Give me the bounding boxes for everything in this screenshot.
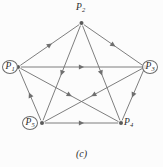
edge-layer — [19, 25, 143, 126]
arrowhead-p1-to-p2 — [46, 44, 52, 49]
vertex-label-letter: P1 — [5, 62, 14, 72]
arrowhead-p1-to-p3 — [79, 64, 84, 69]
node-p5[interactable] — [40, 121, 44, 125]
vertex-label-p2: P2 — [76, 3, 85, 13]
vertex-label-subscript: 5 — [32, 121, 35, 128]
node-p4[interactable] — [119, 121, 123, 125]
node-p2[interactable] — [80, 21, 84, 25]
vertex-label-p5: P5 — [22, 116, 38, 130]
vertex-label-letter: P5 — [25, 118, 34, 128]
vertex-label-letter: P4 — [124, 117, 133, 127]
vertex-label-subscript: 1 — [12, 65, 15, 72]
vertex-label-p1: P1 — [2, 60, 18, 74]
vertex-label-p3: P3 — [142, 60, 158, 74]
node-layer — [16, 21, 147, 125]
vertex-label-p4: P4 — [124, 118, 133, 128]
arrowhead-p2-to-p3 — [110, 41, 116, 46]
figure-caption: (c) — [0, 148, 163, 159]
arrowhead-p5-to-p4 — [79, 120, 84, 125]
vertex-label-subscript: 4 — [130, 121, 133, 128]
vertex-label-letter: P3 — [145, 62, 154, 72]
vertex-label-subscript: 2 — [82, 6, 85, 13]
vertex-label-letter: P2 — [76, 2, 85, 12]
vertex-label-subscript: 3 — [152, 65, 155, 72]
figure-container: P1P2P3P4P5 (c) — [0, 0, 163, 167]
